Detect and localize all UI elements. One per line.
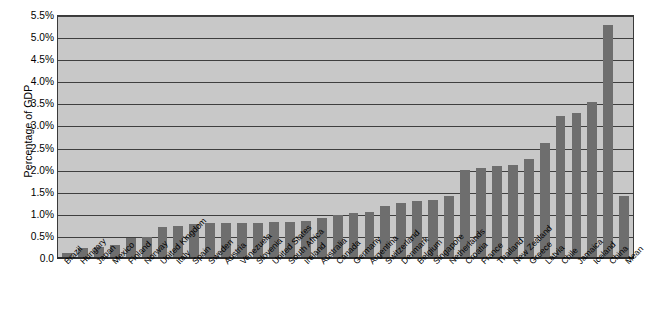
y-tick-label: 3.0%	[22, 120, 54, 131]
bar-slot	[569, 16, 585, 257]
bar-slot	[266, 16, 282, 257]
y-tick-label: 2.5%	[22, 142, 54, 153]
bar-slot	[489, 16, 505, 257]
bar	[556, 116, 566, 257]
y-tick-label: 5.5%	[22, 10, 54, 21]
bar-slot	[377, 16, 393, 257]
bar-slot	[250, 16, 266, 257]
bar-slot	[441, 16, 457, 257]
y-tick-label: 1.0%	[22, 208, 54, 219]
bar-slot	[600, 16, 616, 257]
y-tick-label: 0.5%	[22, 230, 54, 241]
bar-slot	[107, 16, 123, 257]
bar-slot	[409, 16, 425, 257]
y-tick-label: 1.5%	[22, 186, 54, 197]
bar-slot	[330, 16, 346, 257]
bar-slot	[298, 16, 314, 257]
bar	[572, 113, 582, 257]
y-tick-label: 4.5%	[22, 54, 54, 65]
y-tick-label: 5.0%	[22, 32, 54, 43]
bar-slot	[91, 16, 107, 257]
bar-slot	[75, 16, 91, 257]
bar-slot	[553, 16, 569, 257]
y-tick-label: 4.0%	[22, 76, 54, 87]
plot-area	[57, 15, 634, 258]
bar-slot	[218, 16, 234, 257]
bar-slot	[346, 16, 362, 257]
bar-slot	[155, 16, 171, 257]
bar-slot	[457, 16, 473, 257]
bar-slot	[123, 16, 139, 257]
y-tick-label: 2.0%	[22, 164, 54, 175]
bar-slot	[473, 16, 489, 257]
bar-slot	[393, 16, 409, 257]
bar-slot	[59, 16, 75, 257]
bar-slot	[282, 16, 298, 257]
bar	[603, 25, 613, 257]
y-axis-tick-labels: 5.5%5.0%4.5%4.0%3.5%3.0%2.5%2.0%1.5%1.0%…	[22, 0, 54, 328]
bar-slot	[362, 16, 378, 257]
bar-slot	[234, 16, 250, 257]
bar-slot	[616, 16, 632, 257]
bar	[587, 102, 597, 257]
y-tick-label: 0.0	[22, 253, 54, 264]
bar-slot	[314, 16, 330, 257]
bars-container	[58, 16, 633, 257]
bar-slot	[139, 16, 155, 257]
bar-slot	[170, 16, 186, 257]
bar-slot	[521, 16, 537, 257]
y-tick-label: 3.5%	[22, 98, 54, 109]
bar-slot	[584, 16, 600, 257]
bar-slot	[537, 16, 553, 257]
x-axis-tick-labels: BrazilHungaryJapanMexicoFinlandNorwayUni…	[57, 259, 634, 328]
bar-slot	[425, 16, 441, 257]
bar-slot	[505, 16, 521, 257]
